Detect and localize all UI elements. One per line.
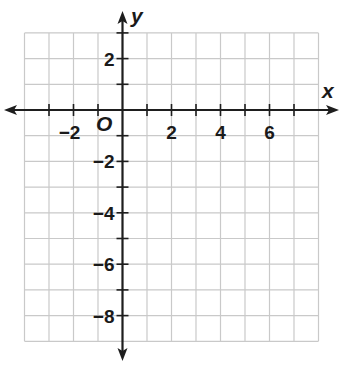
grid-lines [25, 33, 319, 341]
y-tick-label: 2 [104, 49, 115, 70]
coordinate-plane: −22462−2−4−6−8 x y O [0, 0, 352, 383]
x-tick-label: 4 [215, 122, 226, 143]
y-tick-label: −6 [93, 254, 115, 275]
x-axis-label: x [321, 79, 335, 102]
y-tick-label: −8 [93, 306, 115, 327]
y-axis-label: y [130, 4, 144, 27]
x-tick-label: 6 [264, 122, 275, 143]
y-tick-label: −2 [93, 151, 115, 172]
y-tick-label: −4 [93, 203, 115, 224]
x-tick-label: −2 [59, 122, 81, 143]
x-tick-label: 2 [166, 122, 177, 143]
origin-label: O [96, 112, 112, 135]
